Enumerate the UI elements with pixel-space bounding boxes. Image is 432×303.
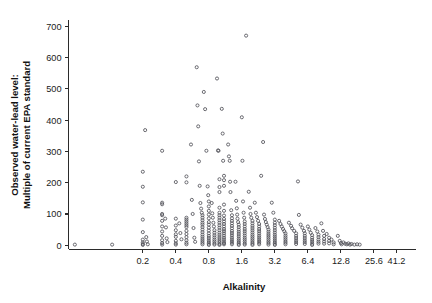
data-point [241,159,244,162]
data-point [141,201,144,204]
y-axis-title-line2: Multiple of current EPA standard [21,61,32,209]
data-point [263,217,266,220]
y-axis-ticks [65,26,69,245]
data-point [336,234,339,237]
data-point [197,160,200,163]
data-point [227,143,230,146]
y-tick-label-700: 700 [46,22,61,32]
data-point [141,218,144,221]
data-point [141,231,144,234]
data-point [254,211,257,214]
data-point [185,232,188,235]
data-point [174,181,177,184]
y-tick-label-400: 400 [46,116,61,126]
data-point [191,212,194,215]
data-point [242,211,245,214]
data-point [178,222,181,225]
data-point [210,201,213,204]
x-tick-label-0.4: 0.4 [169,256,182,266]
data-point [111,243,114,246]
x-axis-title: Alkalinity [223,281,266,292]
data-point [190,198,193,201]
x-axis-tick-labels: 0.20.40.81.63.26.412.825.641.2 [136,256,405,266]
data-point [250,216,253,219]
data-point [222,174,225,177]
data-points-layer [73,34,361,246]
data-point [207,209,210,212]
data-point [212,221,215,224]
data-point [161,149,164,152]
y-tick-label-0: 0 [56,241,61,251]
data-point [241,200,244,203]
data-point [234,180,237,183]
data-point [270,201,273,204]
data-point [222,159,225,162]
data-point [240,116,243,119]
data-point [164,217,167,220]
data-point [314,226,317,229]
data-point [230,209,233,212]
data-point [222,209,225,212]
data-point [247,190,250,193]
data-point [218,178,221,181]
data-point [215,77,218,80]
data-point [262,140,265,143]
data-point [230,214,233,217]
data-point [192,226,195,229]
scatter-plot-figure: 0100200300400500600700 0.20.40.81.63.26.… [0,0,432,303]
data-point [218,186,221,189]
data-point [205,149,208,152]
x-tick-label-25.6: 25.6 [365,256,383,266]
data-point [164,226,167,229]
y-tick-label-600: 600 [46,53,61,63]
data-point [273,218,276,221]
y-axis-tick-labels: 0100200300400500600700 [46,22,61,251]
data-point [316,230,319,233]
y-tick-label-500: 500 [46,84,61,94]
data-point [218,206,221,209]
x-tick-label-0.2: 0.2 [136,256,149,266]
data-point [179,232,182,235]
data-point [278,219,281,222]
data-point [185,175,188,178]
data-point [207,194,210,197]
data-point [229,191,232,194]
data-point [299,223,302,226]
data-point [197,125,200,128]
data-point [212,225,215,228]
x-tick-label-41.2: 41.2 [388,256,406,266]
data-point [144,129,147,132]
data-point [228,159,231,162]
data-point [321,229,324,232]
data-point [189,143,192,146]
data-point [218,191,221,194]
data-point [222,203,225,206]
data-point [253,201,256,204]
x-tick-label-3.2: 3.2 [268,256,281,266]
data-point [185,229,188,232]
data-point [204,108,207,111]
data-point [297,213,300,216]
data-point [174,217,177,220]
alkalinity-vs-lead-scatter: 0100200300400500600700 0.20.40.81.63.26.… [0,0,432,303]
data-point [257,219,260,222]
data-point [260,174,263,177]
data-point [301,226,304,229]
data-point [308,228,311,231]
data-point [198,184,201,187]
data-point [161,219,164,222]
data-point [180,238,183,241]
y-tick-label-300: 300 [46,147,61,157]
data-point [236,213,239,216]
data-point [222,179,225,182]
data-point [174,224,177,227]
y-tick-label-100: 100 [46,209,61,219]
data-point [306,225,309,228]
data-point [202,90,205,93]
data-point [221,132,224,135]
x-tick-label-12.8: 12.8 [332,256,350,266]
y-tick-label-200: 200 [46,178,61,188]
data-point [207,213,210,216]
data-point [222,184,225,187]
data-point [193,236,196,239]
